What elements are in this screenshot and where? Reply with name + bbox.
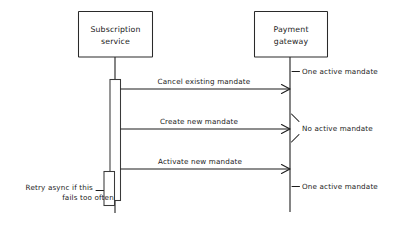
note-retry-async: Retry async if this fails too often (26, 183, 114, 202)
participant-label-subscription-service-line1: Subscription (90, 25, 140, 34)
state-marker-bracket-lower (292, 135, 300, 143)
state-label-one-active-mandate-bottom: One active mandate (302, 182, 378, 191)
sequence-diagram: Subscription service Payment gateway Can… (0, 0, 397, 237)
state-label-one-active-mandate-top: One active mandate (302, 67, 378, 76)
state-annotation-one-active-mandate-bottom: One active mandate (292, 182, 378, 191)
state-marker-bracket-upper (292, 114, 300, 122)
participant-payment-gateway[interactable]: Payment gateway (255, 12, 328, 58)
message-cancel-existing-mandate[interactable]: Cancel existing mandate (121, 77, 291, 94)
participant-box-subscription-service (79, 12, 153, 58)
message-label-activate-new-mandate: Activate new mandate (158, 157, 242, 166)
state-annotation-one-active-mandate-top: One active mandate (292, 67, 378, 76)
participant-label-subscription-service-line2: service (101, 37, 130, 46)
state-annotation-no-active-mandate: No active mandate (292, 114, 374, 142)
participant-subscription-service[interactable]: Subscription service (79, 12, 153, 58)
participant-label-payment-gateway-line2: gateway (274, 37, 309, 46)
participant-label-payment-gateway-line1: Payment (273, 25, 308, 34)
sequence-diagram-canvas: Subscription service Payment gateway Can… (0, 0, 397, 237)
state-label-no-active-mandate: No active mandate (302, 124, 373, 133)
note-retry-async-line1: Retry async if this (26, 183, 93, 192)
message-activate-new-mandate[interactable]: Activate new mandate (121, 157, 291, 174)
note-retry-async-line2: fails too often (62, 193, 114, 202)
message-label-create-new-mandate: Create new mandate (160, 117, 239, 126)
participant-box-payment-gateway (255, 12, 328, 58)
message-label-cancel-existing-mandate: Cancel existing mandate (158, 77, 251, 86)
message-create-new-mandate[interactable]: Create new mandate (121, 117, 291, 134)
